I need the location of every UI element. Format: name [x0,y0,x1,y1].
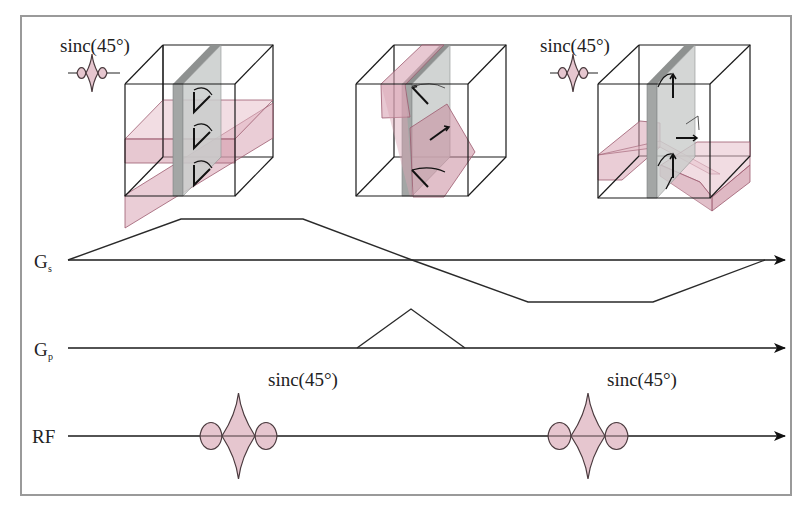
svg-text:G: G [34,339,48,360]
rf-sinc-label-2: sinc(45°) [607,369,677,391]
svg-text:p: p [48,351,53,362]
svg-text:s: s [48,263,52,274]
svg-text:G: G [34,251,48,272]
sinc-label-top-right: sinc(45°) [540,35,610,57]
sinc-label-top-left: sinc(45°) [60,35,130,57]
pulse-sequence-diagram: sinc(45°) sinc(45°) [0,0,808,508]
rf-sinc-label-1: sinc(45°) [268,369,338,391]
rf-label: RF [32,426,55,447]
